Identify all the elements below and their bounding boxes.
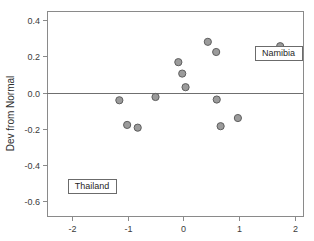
y-tick-label-0.2: 0.2 <box>27 52 40 62</box>
data-point[interactable] <box>204 38 211 45</box>
y-tick-label-0.0: 0.0 <box>27 89 40 99</box>
data-point[interactable] <box>217 123 224 130</box>
annotation-label-thailand: Thailand <box>75 181 110 191</box>
data-point[interactable] <box>179 70 186 77</box>
chart-canvas: 0.40.20.0-0.2-0.4-0.6-2-1012Dev from Nor… <box>0 0 314 241</box>
data-point[interactable] <box>116 97 123 104</box>
x-tick-label--2: -2 <box>68 224 76 234</box>
y-tick-label--0.6: -0.6 <box>24 197 40 207</box>
x-tick-label-1: 1 <box>237 224 242 234</box>
data-point[interactable] <box>182 84 189 91</box>
x-tick-label--1: -1 <box>124 224 132 234</box>
y-tick-label-0.4: 0.4 <box>27 16 40 26</box>
annotation-label-namibia: Namibia <box>262 48 295 58</box>
data-point[interactable] <box>213 48 220 55</box>
data-point[interactable] <box>134 124 141 131</box>
y-tick-label--0.4: -0.4 <box>24 161 40 171</box>
x-tick-label-2: 2 <box>293 224 298 234</box>
data-point[interactable] <box>213 96 220 103</box>
data-point[interactable] <box>234 114 241 121</box>
data-point[interactable] <box>152 93 159 100</box>
scatter-chart: 0.40.20.0-0.2-0.4-0.6-2-1012Dev from Nor… <box>0 0 314 241</box>
y-tick-label--0.2: -0.2 <box>24 125 40 135</box>
y-axis-title: Dev from Normal <box>5 76 16 152</box>
data-point[interactable] <box>175 59 182 66</box>
x-tick-label-0: 0 <box>181 224 186 234</box>
data-point[interactable] <box>124 121 131 128</box>
